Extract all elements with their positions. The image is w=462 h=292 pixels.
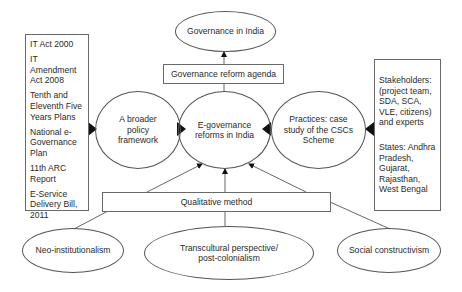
governance-in-india-node: Governance in India <box>175 11 276 52</box>
policy-item: 11th ARC Report <box>30 163 84 184</box>
policy-documents-list: IT Act 2000 IT Amendment Act 2008 Tenth … <box>25 34 89 211</box>
practice-item: Stakeholders: (project team, SDA, SCA, V… <box>379 75 436 128</box>
practices-csc-label-1: Practices: case <box>289 114 347 125</box>
policy-framework-label-3: framework <box>118 135 158 146</box>
policy-framework-label-1: A broader <box>119 114 156 125</box>
practice-item: States: Andhra Pradesh, Gujarat, Rajasth… <box>379 142 436 195</box>
policy-item: Tenth and Eleventh Five Years Plans <box>30 90 84 122</box>
social-constructivism-label: Social constructivism <box>349 245 429 256</box>
egovernance-reforms-label-1: E-governance <box>198 120 252 131</box>
policy-item: IT Act 2000 <box>30 39 84 50</box>
qualitative-method-box: Qualitative method <box>102 192 331 212</box>
practices-csc-node: Practices: case study of the CSCs Scheme <box>271 91 366 169</box>
stakeholders-states-list: Stakeholders: (project team, SDA, SCA, V… <box>374 59 441 211</box>
practices-csc-label-2: study of the CSCs <box>284 125 353 136</box>
practices-csc-label-3: Scheme <box>303 135 335 146</box>
policy-item: IT Amendment Act 2008 <box>30 54 84 86</box>
policy-framework-label-2: policy <box>127 125 149 136</box>
policy-item: E-Service Delivery Bill, 2011 <box>30 189 84 221</box>
arrowhead-list-to-right-circle <box>365 122 374 136</box>
arrow-method-to-center-left <box>147 164 202 192</box>
policy-framework-node: A broader policy framework <box>95 91 181 169</box>
neo-institutionalism-node: Neo-institutionalism <box>22 228 124 273</box>
social-constructivism-node: Social constructivism <box>337 228 441 273</box>
arrow-method-to-center-right <box>249 164 306 192</box>
qualitative-method-label: Qualitative method <box>181 197 253 208</box>
governance-in-india-label: Governance in India <box>187 26 264 37</box>
transcultural-node: Transcultural perspective/ post-colonial… <box>144 226 314 280</box>
egovernance-reforms-node: E-governance reforms in India <box>178 91 271 169</box>
policy-item: National e-Governance Plan <box>30 127 84 159</box>
transcultural-label-1: Transcultural perspective/ <box>180 243 278 254</box>
governance-reform-agenda-box: Governance reform agenda <box>163 64 284 84</box>
neo-institutionalism-label: Neo-institutionalism <box>36 245 111 256</box>
transcultural-label-2: post-colonialism <box>198 253 260 264</box>
governance-reform-agenda-label: Governance reform agenda <box>171 69 276 80</box>
egovernance-reforms-label-2: reforms in India <box>195 130 254 141</box>
